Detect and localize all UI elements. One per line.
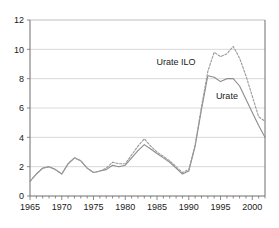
y-tick-label-6: 6 — [19, 103, 24, 113]
series-label-urate-ilo: Urate ILO — [157, 57, 196, 67]
x-tick-label-1980: 1980 — [115, 202, 135, 212]
x-tick-label-1985: 1985 — [147, 202, 167, 212]
y-tick-label-8: 8 — [19, 74, 24, 84]
y-tick-label-2: 2 — [19, 162, 24, 172]
y-tick-label-10: 10 — [14, 45, 24, 55]
y-tick-label-4: 4 — [19, 133, 24, 143]
x-tick-label-1995: 1995 — [211, 202, 231, 212]
chart-container: 0246810121965197019751980198519901995200… — [0, 0, 279, 228]
x-tick-label-2000: 2000 — [242, 202, 262, 212]
x-tick-label-1970: 1970 — [52, 202, 72, 212]
line-chart: 0246810121965197019751980198519901995200… — [0, 0, 279, 228]
y-tick-label-0: 0 — [19, 191, 24, 201]
series-label-urate: Urate — [216, 91, 238, 101]
x-tick-label-1990: 1990 — [179, 202, 199, 212]
y-tick-label-12: 12 — [14, 15, 24, 25]
x-tick-label-1965: 1965 — [20, 202, 40, 212]
x-tick-label-1975: 1975 — [83, 202, 103, 212]
series-line-urate-ilo — [30, 46, 265, 181]
